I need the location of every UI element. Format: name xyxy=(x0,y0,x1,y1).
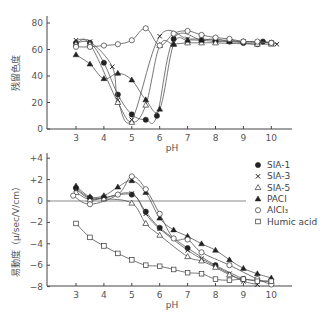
data-point xyxy=(171,31,176,36)
legend-label: SIA-1 xyxy=(267,160,290,170)
mobility-chart: +4+20−2−4−6−8345678910pH易動度（μ/sec/V/cm） xyxy=(10,153,292,310)
bottom-y-axis-title: 易動度（μ/sec/V/cm） xyxy=(10,182,21,277)
bottom-x-tick-label: 6 xyxy=(157,290,163,300)
data-point xyxy=(185,237,190,242)
data-point xyxy=(199,250,204,255)
data-point xyxy=(199,32,204,37)
top-y-tick-label: 0 xyxy=(37,124,43,134)
residual-color-chart: 020406080345678910pH残留色度 xyxy=(10,16,292,153)
data-point xyxy=(115,70,121,75)
data-point xyxy=(143,117,148,122)
data-point xyxy=(129,38,134,43)
legend-label: Humic acid xyxy=(267,217,317,227)
bottom-y-tick-label: −2 xyxy=(30,217,43,227)
data-point xyxy=(129,174,134,179)
legend-marker xyxy=(256,219,261,224)
bottom-x-tick-label: 9 xyxy=(241,290,247,300)
data-point xyxy=(102,244,107,249)
data-point xyxy=(101,43,106,48)
data-point xyxy=(275,42,279,46)
data-point xyxy=(227,263,232,268)
data-point xyxy=(143,187,148,192)
data-point xyxy=(73,52,79,57)
top-y-axis-title: 残留色度 xyxy=(10,55,21,91)
top-x-tick-label: 10 xyxy=(266,133,278,143)
data-point xyxy=(227,257,233,262)
data-point xyxy=(154,113,159,118)
data-point xyxy=(171,227,177,232)
data-point xyxy=(227,278,232,283)
bottom-y-tick-label: +4 xyxy=(30,153,44,163)
legend-label: AlCl₃ xyxy=(267,205,288,215)
data-point xyxy=(116,251,121,256)
legend-marker xyxy=(255,162,260,167)
top-x-tick-label: 9 xyxy=(241,133,247,143)
data-point xyxy=(185,270,190,275)
legend-label: PACl xyxy=(267,194,287,204)
series-sia-5 xyxy=(73,40,274,125)
top-y-tick-label: 60 xyxy=(32,45,44,55)
data-point xyxy=(157,106,163,111)
data-point xyxy=(157,43,162,48)
data-point xyxy=(255,39,260,44)
legend-item: Humic acid xyxy=(256,217,318,227)
data-point xyxy=(241,265,247,270)
legend-marker xyxy=(255,208,260,213)
data-point xyxy=(115,192,120,197)
data-point xyxy=(171,236,176,241)
series-pacl xyxy=(73,178,274,280)
data-point xyxy=(130,258,135,263)
figure: 020406080345678910pH残留色度 +4+20−2−4−6−834… xyxy=(0,0,326,325)
data-point xyxy=(213,247,219,252)
data-point xyxy=(241,277,246,282)
bottom-x-tick-label: 5 xyxy=(129,290,135,300)
top-x-tick-label: 3 xyxy=(73,133,79,143)
legend-item: PACl xyxy=(255,194,287,204)
legend-marker xyxy=(255,196,261,201)
legend-item: SIA-3 xyxy=(256,171,291,181)
bottom-x-tick-label: 4 xyxy=(101,290,107,300)
data-point xyxy=(241,39,246,44)
data-point xyxy=(87,44,92,49)
bottom-x-tick-label: 3 xyxy=(73,290,79,300)
data-point xyxy=(71,193,76,198)
top-y-tick-label: 40 xyxy=(32,71,44,81)
data-point xyxy=(227,36,232,41)
data-point xyxy=(88,235,93,240)
data-point xyxy=(185,28,190,33)
data-point xyxy=(110,65,114,69)
data-point xyxy=(157,232,163,237)
bottom-y-tick-label: −4 xyxy=(30,239,44,249)
series-line xyxy=(76,40,271,123)
legend-marker xyxy=(255,185,261,190)
bottom-y-tick-label: +2 xyxy=(30,175,43,185)
data-point xyxy=(269,279,274,284)
top-x-axis-title: pH xyxy=(166,143,178,153)
bottom-x-tick-label: 7 xyxy=(185,290,191,300)
data-point xyxy=(255,279,260,284)
bottom-y-tick-label: 0 xyxy=(37,196,43,206)
data-point xyxy=(213,277,218,282)
data-point xyxy=(74,221,79,226)
legend-item: SIA-5 xyxy=(255,183,290,193)
data-point xyxy=(115,42,120,47)
data-point xyxy=(115,184,121,189)
data-point xyxy=(73,183,79,188)
data-point xyxy=(87,61,93,66)
data-point xyxy=(269,40,274,45)
legend-marker xyxy=(256,174,260,178)
series-line xyxy=(76,223,271,281)
data-point xyxy=(185,254,191,259)
bottom-y-tick-label: −8 xyxy=(30,282,44,292)
legend-item: SIA-1 xyxy=(255,160,290,170)
top-x-tick-label: 7 xyxy=(185,133,191,143)
data-point xyxy=(157,264,162,269)
bottom-x-tick-label: 10 xyxy=(266,290,278,300)
legend-item: AlCl₃ xyxy=(255,205,288,215)
data-point xyxy=(171,267,176,272)
legend-label: SIA-5 xyxy=(267,183,290,193)
legend-label: SIA-3 xyxy=(267,171,290,181)
data-point xyxy=(143,263,148,268)
bottom-x-axis-title: pH xyxy=(166,300,178,310)
top-x-tick-label: 4 xyxy=(101,133,107,143)
